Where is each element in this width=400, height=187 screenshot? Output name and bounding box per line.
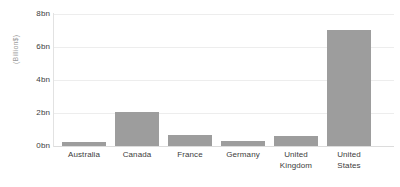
bars-layer [54, 14, 394, 146]
x-tick-label-line: States [314, 161, 384, 172]
bar-slot-united-states [327, 14, 371, 146]
bar-slot-germany [221, 14, 265, 146]
bar-germany[interactable] [221, 141, 265, 146]
bar-slot-australia [62, 14, 106, 146]
bar-slot-united-kingdom [274, 14, 318, 146]
gridline-0bn-baseline [54, 146, 394, 147]
bar-slot-france [168, 14, 212, 146]
y-tick-label-6bn: 6bn [6, 42, 50, 51]
y-tick-label-4bn: 4bn [6, 75, 50, 84]
y-tick-label-2bn: 2bn [6, 108, 50, 117]
y-tick-label-0bn: 0bn [6, 141, 50, 150]
bar-france[interactable] [168, 135, 212, 146]
x-tick-label-united-states: United States [314, 150, 384, 171]
bar-united-states[interactable] [327, 30, 371, 146]
y-tick-label-8bn: 8bn [6, 9, 50, 18]
bar-canada[interactable] [115, 112, 159, 146]
bar-chart: (Billion$) 8bn 6bn 4bn 2bn 0bn [0, 0, 400, 187]
bar-australia[interactable] [62, 142, 106, 146]
bar-slot-canada [115, 14, 159, 146]
y-axis-tick-labels: 8bn 6bn 4bn 2bn 0bn [0, 0, 50, 187]
bar-united-kingdom[interactable] [274, 136, 318, 146]
x-axis-tick-labels: Australia Canada France Germany United K… [54, 150, 394, 184]
x-tick-label-line: United [314, 150, 384, 161]
